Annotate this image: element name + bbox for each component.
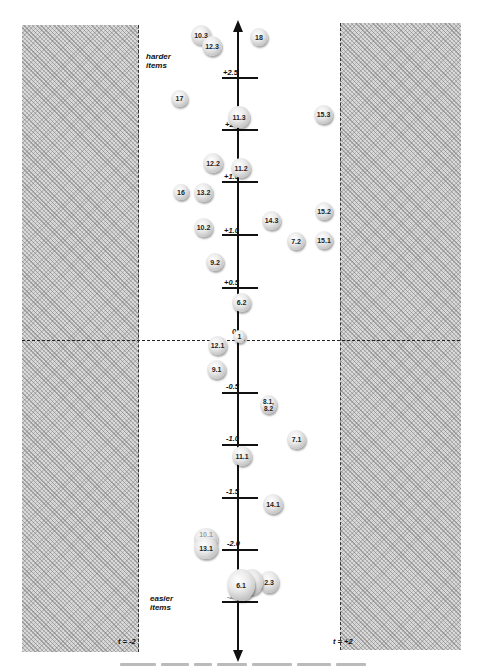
annotation-line: items: [146, 61, 171, 70]
tick-label: +0.5: [224, 278, 239, 287]
tick-label: +1.0: [224, 226, 239, 235]
tick-label: -1.5: [226, 487, 239, 496]
misfit-region-left: [22, 25, 139, 652]
item-bubble: 1: [233, 330, 246, 343]
item-bubble: 6.2: [232, 293, 251, 312]
harder-items-label: harder items: [146, 52, 171, 70]
item-bubble: 14.3: [262, 211, 281, 230]
item-bubble: 7.2: [287, 232, 305, 250]
item-bubble: 12.3: [202, 36, 222, 56]
tick-mark: [222, 129, 258, 131]
item-bubble: 18: [250, 28, 268, 46]
annotation-line: items: [150, 603, 173, 612]
item-bubble: 14.1: [263, 494, 283, 514]
item-bubble: 17: [171, 90, 188, 107]
arrow-down-icon: [233, 650, 243, 662]
tick-label: -2.0: [227, 539, 240, 548]
tick-label: +2.5: [223, 68, 238, 77]
tick-mark: [222, 77, 258, 79]
tick-mark: [222, 497, 258, 499]
item-bubble: 12.1: [208, 336, 227, 355]
arrow-up-icon: [233, 20, 243, 32]
item-bubble: 15.1: [315, 231, 333, 249]
item-bubble: 7.1: [287, 430, 306, 449]
annotation-line: easier: [150, 594, 173, 603]
threshold-label-right: t = +2: [333, 637, 353, 646]
tick-mark: [222, 601, 258, 603]
annotation-line: harder: [146, 52, 171, 61]
tick-mark: [222, 549, 258, 551]
item-bubble: 13.1: [194, 537, 218, 559]
item-bubble: 6.1: [227, 569, 255, 601]
tick-mark: [222, 287, 258, 289]
item-bubble: 11.1: [232, 446, 252, 466]
item-bubble: 10.2: [194, 218, 213, 237]
item-bubble: 15.3: [314, 105, 333, 124]
item-bubble: 15.2: [315, 202, 333, 220]
item-bubble: 12.2: [203, 153, 223, 173]
tick-mark: [222, 181, 258, 183]
tick-mark: [222, 392, 258, 394]
item-bubble: 16: [173, 184, 189, 200]
item-bubble: 8.1, 8.2: [260, 395, 277, 414]
figure-caption-cutoff: [120, 663, 380, 671]
tick-label: -1.0: [226, 434, 239, 443]
threshold-label-left: t = -2: [118, 637, 136, 646]
misfit-region-right: [340, 23, 461, 650]
item-bubble: 11.3: [228, 106, 250, 128]
item-bubble: 11.2: [231, 158, 251, 178]
item-bubble: 9.1: [207, 360, 226, 379]
tick-label: -0.5: [226, 382, 239, 391]
item-bubble: 9.2: [206, 253, 224, 271]
item-bubble: 13.2: [194, 183, 213, 202]
easier-items-label: easier items: [150, 594, 173, 612]
